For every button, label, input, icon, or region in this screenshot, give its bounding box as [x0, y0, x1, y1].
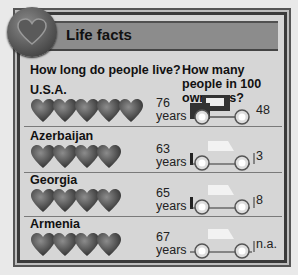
country-label: Georgia — [30, 173, 77, 187]
car-ownership-value: n.a. — [256, 237, 277, 251]
heart-icon — [96, 144, 122, 170]
table-row: Azerbaijan63years3 — [30, 129, 278, 173]
country-label: Armenia — [30, 217, 80, 231]
life-expectancy-value: 63years — [156, 143, 187, 169]
heart-icon — [118, 98, 144, 124]
table-row: U.S.A.76years48 — [30, 83, 278, 127]
country-label: U.S.A. — [30, 83, 67, 97]
country-label: Azerbaijan — [30, 129, 93, 143]
life-expectancy-hearts — [30, 232, 118, 258]
life-expectancy-value: 67years — [156, 231, 187, 257]
car-icon — [188, 93, 258, 129]
heart-badge — [7, 7, 57, 57]
car-ownership-value: 3 — [256, 149, 263, 163]
heart-icon — [17, 18, 47, 46]
car-icon — [188, 227, 258, 263]
title: Life facts — [66, 26, 132, 43]
title-bar: Life facts — [20, 21, 278, 51]
life-expectancy-value: 65years — [156, 187, 187, 213]
life-expectancy-heading: How long do people live? — [30, 63, 181, 77]
infographic-frame: Life facts How long do people live? How … — [17, 12, 287, 263]
car-ownership-value: 8 — [256, 193, 263, 207]
car-icon — [188, 183, 258, 219]
heart-icon — [96, 188, 122, 214]
car-ownership-value: 48 — [256, 103, 270, 117]
life-expectancy-hearts — [30, 98, 140, 124]
table-row: Georgia65years8 — [30, 173, 278, 217]
row-divider — [24, 126, 282, 127]
life-expectancy-hearts — [30, 144, 118, 170]
car-icon — [188, 139, 258, 175]
table-row: Armenia67yearsn.a. — [30, 217, 278, 261]
heart-icon — [96, 232, 122, 258]
life-expectancy-value: 76years — [156, 97, 187, 123]
life-expectancy-hearts — [30, 188, 118, 214]
